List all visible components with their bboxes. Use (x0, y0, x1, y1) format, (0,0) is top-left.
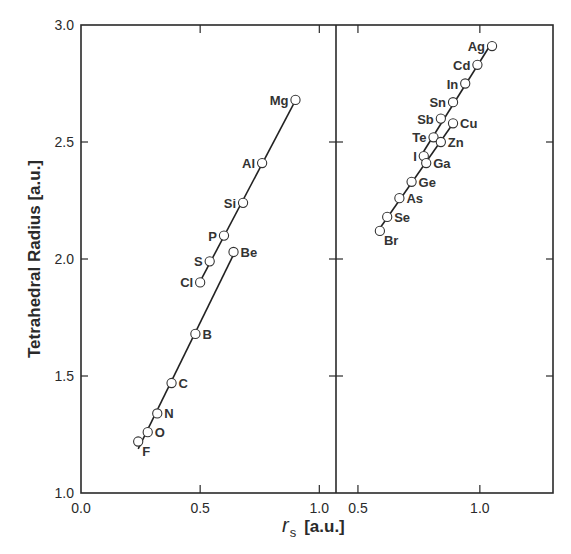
x-tick-label: 1.0 (470, 500, 490, 516)
x-tick-label: 0.5 (190, 500, 210, 516)
data-point-al (258, 158, 267, 167)
point-label-c: C (179, 376, 189, 391)
point-label-ga: Ga (433, 156, 451, 171)
point-label-cl: Cl (180, 275, 193, 290)
point-label-be: Be (241, 245, 258, 260)
point-label-ge: Ge (419, 175, 436, 190)
point-label-cu: Cu (460, 116, 477, 131)
data-point-p (219, 231, 228, 240)
point-label-cd: Cd (453, 58, 470, 73)
point-label-n: N (164, 406, 173, 421)
point-label-p: P (208, 229, 217, 244)
x-tick-label: 0.5 (348, 500, 368, 516)
data-point-cu (448, 119, 457, 128)
data-point-sb (436, 114, 445, 123)
data-point-se (383, 212, 392, 221)
data-point-n (153, 409, 162, 418)
data-point-si (238, 198, 247, 207)
data-point-ga (422, 158, 431, 167)
y-tick-label: 2.0 (55, 251, 75, 267)
x-axis-label: rs[a.u.] (282, 514, 345, 540)
x-tick-label: 0.0 (71, 500, 91, 516)
point-label-se: Se (394, 210, 410, 225)
y-tick-label: 1.0 (55, 485, 75, 501)
y-tick-label: 3.0 (55, 17, 75, 33)
point-label-s: S (194, 254, 203, 269)
point-label-si: Si (224, 196, 236, 211)
point-label-b: B (202, 327, 211, 342)
x-tick-label: 1.0 (310, 500, 330, 516)
data-series: MgAlSiPSClBeBCNOFAgCdInSnSbTeICuZnGaGeAs… (134, 39, 497, 458)
data-point-as (395, 194, 404, 203)
data-point-s (205, 257, 214, 266)
x-axis-subscript: s (290, 525, 297, 540)
x-axis-units: [a.u.] (304, 517, 345, 536)
point-label-al: Al (242, 156, 255, 171)
data-point-in (461, 79, 470, 88)
y-tick-label: 2.5 (55, 134, 75, 150)
data-point-be (229, 247, 238, 256)
data-point-cl (196, 278, 205, 287)
point-label-f: F (142, 444, 150, 459)
point-label-mg: Mg (270, 93, 289, 108)
point-label-o: O (155, 425, 165, 440)
chart-canvas: 1.01.52.02.53.00.00.51.00.51.0 MgAlSiPSC… (0, 0, 571, 554)
data-point-ge (407, 177, 416, 186)
point-label-in: In (447, 77, 459, 92)
data-point-c (167, 378, 176, 387)
point-label-br: Br (384, 233, 398, 248)
point-label-ag: Ag (468, 39, 485, 54)
point-label-te: Te (412, 130, 426, 145)
series-left-1: BeBCNOF (134, 245, 258, 459)
point-label-i: I (413, 149, 417, 164)
data-point-b (191, 329, 200, 338)
data-point-sn (448, 98, 457, 107)
y-axis-label: Tetrahedral Radius [a.u.] (25, 160, 44, 358)
point-label-sb: Sb (417, 112, 434, 127)
point-label-zn: Zn (448, 135, 464, 150)
axis-tick-labels: 1.01.52.02.53.00.00.51.00.51.0 (55, 17, 490, 516)
data-point-zn (436, 137, 445, 146)
point-label-sn: Sn (429, 95, 446, 110)
data-point-mg (291, 95, 300, 104)
data-point-cd (473, 60, 482, 69)
tetrahedral-radius-chart: 1.01.52.02.53.00.00.51.00.51.0 MgAlSiPSC… (0, 0, 571, 554)
point-label-as: As (406, 191, 423, 206)
data-point-ag (487, 41, 496, 50)
data-point-o (143, 428, 152, 437)
series-left-0: MgAlSiPSCl (180, 93, 300, 291)
y-tick-label: 1.5 (55, 368, 75, 384)
